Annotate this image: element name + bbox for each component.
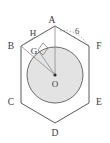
label-side-measure: 6 bbox=[75, 26, 79, 36]
geometry-figure: A B C D E F O G H 6 bbox=[0, 0, 110, 143]
label-vertex-f: F bbox=[96, 41, 101, 51]
label-vertex-d: D bbox=[52, 128, 59, 138]
label-point-g: G bbox=[31, 46, 38, 56]
label-center-o: O bbox=[52, 79, 59, 89]
label-vertex-e: E bbox=[96, 97, 102, 107]
segment-bh bbox=[21, 37, 35, 46]
label-vertex-b: B bbox=[8, 41, 14, 51]
label-vertex-c: C bbox=[8, 97, 14, 107]
geometry-canvas: A B C D E F O G H 6 bbox=[0, 0, 110, 143]
label-point-h: H bbox=[30, 28, 37, 38]
label-vertex-a: A bbox=[49, 15, 56, 25]
center-point-dot bbox=[53, 73, 56, 76]
